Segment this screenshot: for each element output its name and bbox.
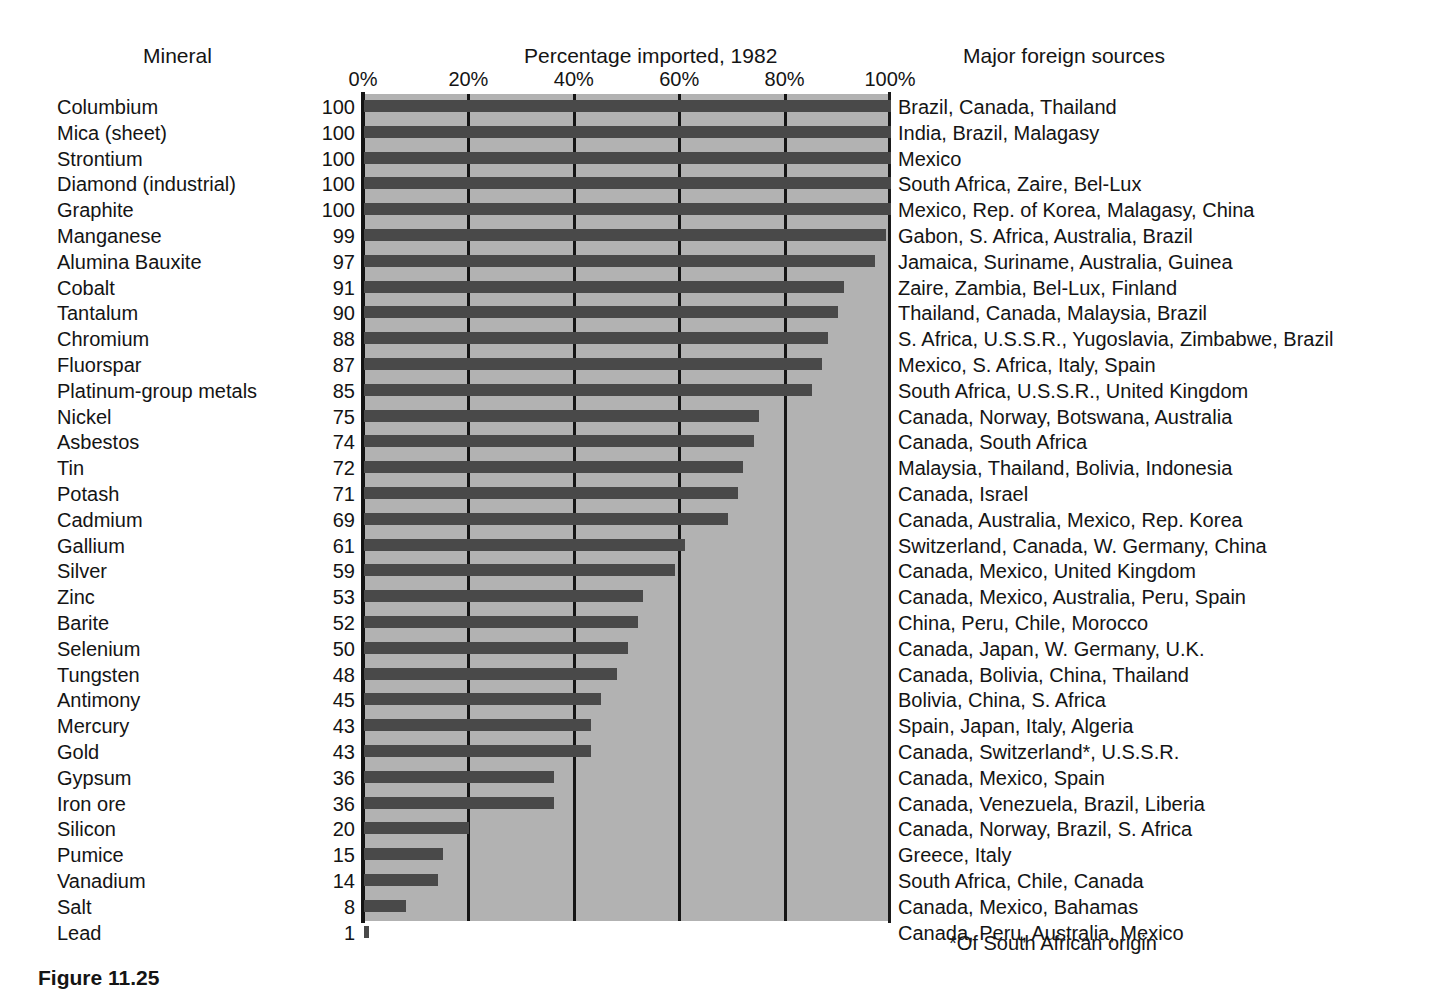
foreign-sources: Malaysia, Thailand, Bolivia, Indonesia: [898, 457, 1232, 480]
bar: [364, 590, 643, 602]
mineral-label: Mercury: [57, 715, 129, 738]
mineral-label: Mica (sheet): [57, 122, 167, 145]
chart-row: Zinc53Canada, Mexico, Australia, Peru, S…: [0, 584, 1430, 610]
foreign-sources: Zaire, Zambia, Bel-Lux, Finland: [898, 277, 1177, 300]
chart-row: Tin72Malaysia, Thailand, Bolivia, Indone…: [0, 455, 1430, 481]
mineral-label: Gallium: [57, 535, 125, 558]
percent-value: 100: [270, 122, 355, 145]
bar-track: [364, 791, 890, 817]
bar: [364, 926, 369, 938]
bar: [364, 513, 728, 525]
chart-row: Tantalum90Thailand, Canada, Malaysia, Br…: [0, 300, 1430, 326]
chart-row: Silicon20Canada, Norway, Brazil, S. Afri…: [0, 816, 1430, 842]
chart-row: Pumice15Greece, Italy: [0, 842, 1430, 868]
bar-track: [364, 146, 890, 172]
foreign-sources: South Africa, U.S.S.R., United Kingdom: [898, 380, 1248, 403]
bar: [364, 564, 675, 576]
bar-track: [364, 816, 890, 842]
foreign-sources: Canada, Bolivia, China, Thailand: [898, 664, 1189, 687]
foreign-sources: Switzerland, Canada, W. Germany, China: [898, 535, 1267, 558]
bar: [364, 306, 838, 318]
bar-track: [364, 507, 890, 533]
foreign-sources: China, Peru, Chile, Morocco: [898, 612, 1148, 635]
mineral-label: Graphite: [57, 199, 134, 222]
chart-row: Nickel75Canada, Norway, Botswana, Austra…: [0, 404, 1430, 430]
chart-row: Alumina Bauxite97Jamaica, Suriname, Aust…: [0, 249, 1430, 275]
bar-track: [364, 842, 890, 868]
bar-track: [364, 171, 890, 197]
mineral-label: Manganese: [57, 225, 162, 248]
chart-row: Gold43Canada, Switzerland*, U.S.S.R.: [0, 739, 1430, 765]
bar-track: [364, 636, 890, 662]
mineral-label: Gold: [57, 741, 99, 764]
bar-track: [364, 868, 890, 894]
column-header-mineral: Mineral: [143, 44, 212, 68]
bar: [364, 332, 828, 344]
mineral-label: Nickel: [57, 406, 111, 429]
mineral-label: Barite: [57, 612, 109, 635]
mineral-label: Tin: [57, 457, 84, 480]
foreign-sources: Jamaica, Suriname, Australia, Guinea: [898, 251, 1233, 274]
bar: [364, 281, 844, 293]
percent-value: 20: [270, 818, 355, 841]
chart-row: Tungsten48Canada, Bolivia, China, Thaila…: [0, 662, 1430, 688]
percent-value: 97: [270, 251, 355, 274]
bar-track: [364, 713, 890, 739]
bar: [364, 410, 759, 422]
foreign-sources: India, Brazil, Malagasy: [898, 122, 1099, 145]
foreign-sources: Canada, Norway, Botswana, Australia: [898, 406, 1232, 429]
percent-value: 52: [270, 612, 355, 635]
x-tick-label-20: 20%: [448, 68, 488, 91]
foreign-sources: South Africa, Chile, Canada: [898, 870, 1144, 893]
percent-value: 14: [270, 870, 355, 893]
bar: [364, 616, 638, 628]
mineral-label: Fluorspar: [57, 354, 141, 377]
chart-row: Fluorspar87Mexico, S. Africa, Italy, Spa…: [0, 352, 1430, 378]
mineral-label: Iron ore: [57, 793, 126, 816]
foreign-sources: Spain, Japan, Italy, Algeria: [898, 715, 1133, 738]
chart-row: Columbium100Brazil, Canada, Thailand: [0, 94, 1430, 120]
foreign-sources: Brazil, Canada, Thailand: [898, 96, 1117, 119]
mineral-label: Silicon: [57, 818, 116, 841]
mineral-label: Chromium: [57, 328, 149, 351]
foreign-sources: Thailand, Canada, Malaysia, Brazil: [898, 302, 1207, 325]
foreign-sources: S. Africa, U.S.S.R., Yugoslavia, Zimbabw…: [898, 328, 1333, 351]
bar-track: [364, 662, 890, 688]
bar-track: [364, 610, 890, 636]
bar-track: [364, 404, 890, 430]
chart-row: Diamond (industrial)100South Africa, Zai…: [0, 171, 1430, 197]
foreign-sources: Mexico, Rep. of Korea, Malagasy, China: [898, 199, 1254, 222]
foreign-sources: Canada, Australia, Mexico, Rep. Korea: [898, 509, 1243, 532]
chart-row: Antimony45Bolivia, China, S. Africa: [0, 687, 1430, 713]
percent-value: 85: [270, 380, 355, 403]
percent-value: 43: [270, 741, 355, 764]
foreign-sources: Canada, Venezuela, Brazil, Liberia: [898, 793, 1205, 816]
bar-track: [364, 455, 890, 481]
foreign-sources: Canada, Mexico, Australia, Peru, Spain: [898, 586, 1246, 609]
bar-track: [364, 300, 890, 326]
chart-row: Salt8Canada, Mexico, Bahamas: [0, 894, 1430, 920]
mineral-label: Lead: [57, 922, 102, 945]
bar-track: [364, 765, 890, 791]
percent-value: 15: [270, 844, 355, 867]
chart-row: Graphite100Mexico, Rep. of Korea, Malaga…: [0, 197, 1430, 223]
bar: [364, 642, 628, 654]
chart-row: Mica (sheet)100India, Brazil, Malagasy: [0, 120, 1430, 146]
chart-row: Vanadium14South Africa, Chile, Canada: [0, 868, 1430, 894]
chart-row: Asbestos74Canada, South Africa: [0, 429, 1430, 455]
mineral-imports-figure: Mineral Percentage imported, 1982 Major …: [0, 0, 1430, 990]
bar: [364, 435, 754, 447]
bar: [364, 358, 822, 370]
bar-track: [364, 197, 890, 223]
bar-track: [364, 94, 890, 120]
bar-track: [364, 920, 890, 946]
bar: [364, 668, 617, 680]
percent-value: 99: [270, 225, 355, 248]
percent-value: 59: [270, 560, 355, 583]
percent-value: 36: [270, 793, 355, 816]
chart-row: Silver59Canada, Mexico, United Kingdom: [0, 558, 1430, 584]
bar-track: [364, 326, 890, 352]
bar-track: [364, 533, 890, 559]
chart-row: Selenium50Canada, Japan, W. Germany, U.K…: [0, 636, 1430, 662]
chart-row: Cobalt91Zaire, Zambia, Bel-Lux, Finland: [0, 275, 1430, 301]
